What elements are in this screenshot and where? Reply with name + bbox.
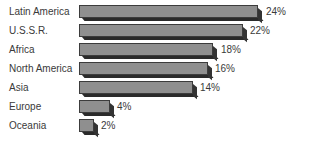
value-label: 22% [250, 25, 270, 36]
category-label: Latin America [9, 6, 70, 17]
bar-row: Asia 14% [0, 80, 314, 98]
bar [79, 5, 258, 18]
bar-row: Latin America 24% [0, 4, 314, 22]
value-label: 14% [200, 82, 220, 93]
value-label: 4% [117, 101, 131, 112]
bar-row: U.S.S.R. 22% [0, 23, 314, 41]
bar-row: North America 16% [0, 61, 314, 79]
value-label: 16% [215, 63, 235, 74]
bar [79, 100, 110, 113]
bar-row: Africa 18% [0, 42, 314, 60]
horizontal-bar-chart: Latin America 24% U.S.S.R. 22% Africa 18… [0, 0, 314, 142]
bar [79, 81, 193, 94]
category-label: Asia [9, 82, 28, 93]
bar [79, 119, 94, 132]
bar-row: Europe 4% [0, 99, 314, 117]
bar-row: Oceania 2% [0, 118, 314, 136]
category-label: North America [9, 63, 72, 74]
category-label: U.S.S.R. [9, 25, 48, 36]
bar [79, 24, 243, 37]
value-label: 2% [101, 120, 115, 131]
category-label: Europe [9, 101, 41, 112]
value-label: 18% [221, 44, 241, 55]
bar [79, 62, 208, 75]
bar [79, 43, 213, 56]
category-label: Africa [9, 44, 35, 55]
category-label: Oceania [9, 120, 46, 131]
value-label: 24% [266, 6, 286, 17]
